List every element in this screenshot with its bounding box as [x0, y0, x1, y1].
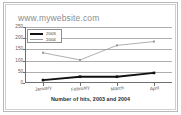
y-tick-mark — [23, 83, 25, 84]
y-tick-label: 100 — [5, 58, 23, 63]
chart-title: www.mywebsite.com — [18, 13, 138, 23]
y-tick-label: 250 — [5, 24, 23, 29]
data-point-marker — [42, 79, 45, 82]
data-point-marker — [116, 75, 119, 78]
data-point-marker — [42, 52, 44, 54]
data-point-marker — [116, 44, 118, 46]
legend-item-2004: 2004 — [30, 37, 61, 43]
series-line-2003 — [43, 73, 154, 80]
data-point-marker — [153, 72, 156, 75]
series-line-2004 — [43, 42, 154, 60]
y-tick-label: 150 — [5, 46, 23, 51]
y-tick-label: 50 — [5, 69, 23, 74]
legend-label: 2004 — [46, 37, 56, 43]
legend-line-swatch-icon — [30, 33, 43, 35]
legend-line-swatch-icon — [30, 39, 43, 40]
y-tick-label: 200 — [5, 35, 23, 40]
y-axis-tick-labels: 250 200 150 100 50 0 — [3, 24, 23, 86]
chart-legend: 2003 2004 — [27, 29, 62, 43]
chart-figure: www.mywebsite.com 250 200 150 100 50 0 J… — [0, 0, 181, 115]
y-tick-label: 0 — [5, 80, 23, 85]
data-point-marker — [153, 41, 155, 43]
data-point-marker — [79, 59, 81, 61]
data-point-marker — [79, 75, 82, 78]
chart-caption: Number of hits, 2003 and 2004 — [0, 96, 181, 102]
